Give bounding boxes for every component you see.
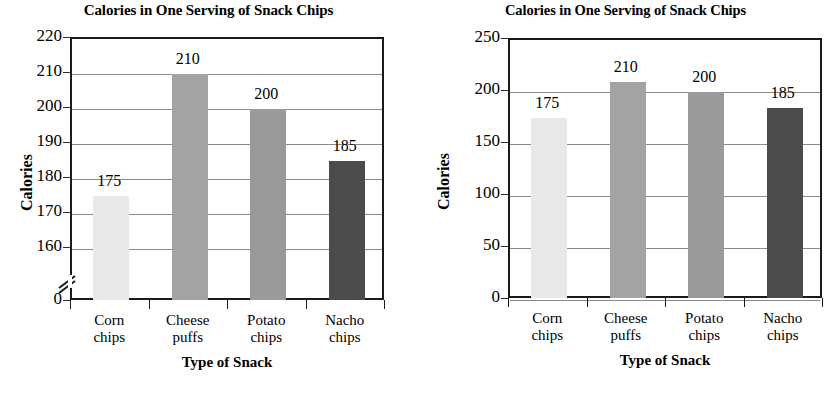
y-tick-mark bbox=[63, 247, 70, 248]
y-tick-label: 150 bbox=[448, 131, 500, 151]
x-axis-label-left: Type of Snack bbox=[50, 354, 404, 371]
bar-corn-chips bbox=[93, 196, 129, 300]
x-tick-mark bbox=[70, 300, 71, 309]
x-tick-mark bbox=[508, 298, 509, 307]
bar-value-label: 210 bbox=[158, 50, 218, 68]
y-tick-mark bbox=[63, 72, 70, 73]
y-tick-mark bbox=[501, 246, 508, 247]
bar-value-label: 210 bbox=[596, 58, 656, 76]
y-tick-mark bbox=[63, 212, 70, 213]
bar-value-label: 175 bbox=[79, 172, 139, 190]
x-axis-label-right: Type of Snack bbox=[488, 352, 834, 369]
x-category-label: Potatochips bbox=[221, 312, 311, 346]
gridline bbox=[72, 109, 382, 110]
chart-figure-right: Calories in One Serving of Snack Chips C… bbox=[417, 0, 834, 399]
y-tick-label: 160 bbox=[10, 236, 62, 256]
y-tick-mark bbox=[63, 177, 70, 178]
y-tick-label: 0 bbox=[448, 287, 500, 307]
y-tick-mark bbox=[501, 298, 508, 299]
bar-value-label: 185 bbox=[315, 137, 375, 155]
y-tick-label: 170 bbox=[10, 201, 62, 221]
bar-nacho-chips bbox=[329, 161, 365, 300]
bar-value-label: 175 bbox=[517, 94, 577, 112]
x-tick-mark bbox=[665, 298, 666, 307]
y-tick-label: 190 bbox=[10, 131, 62, 151]
x-category-label: Potatochips bbox=[659, 310, 749, 344]
y-tick-mark bbox=[501, 194, 508, 195]
y-tick-label: 200 bbox=[10, 96, 62, 116]
axis-break-mask bbox=[68, 275, 72, 288]
y-tick-mark bbox=[501, 90, 508, 91]
y-tick-label: 220 bbox=[10, 26, 62, 46]
x-category-label: Cornchips bbox=[502, 310, 592, 344]
chart-title-right: Calories in One Serving of Snack Chips bbox=[417, 2, 834, 19]
x-category-label: Cornchips bbox=[64, 312, 154, 346]
y-tick-mark bbox=[63, 37, 70, 38]
y-tick-label: 0 bbox=[10, 289, 62, 309]
bar-nacho-chips bbox=[767, 108, 803, 298]
bar-value-label: 200 bbox=[236, 85, 296, 103]
plot-area-left bbox=[70, 37, 384, 300]
y-tick-mark bbox=[63, 300, 70, 301]
x-tick-mark bbox=[227, 300, 228, 309]
y-tick-mark bbox=[63, 107, 70, 108]
bar-potato-chips bbox=[688, 92, 724, 298]
bar-corn-chips bbox=[531, 118, 567, 298]
chart-figure-left: Calories in One Serving of Snack Chips C… bbox=[0, 0, 417, 399]
y-tick-label: 100 bbox=[448, 183, 500, 203]
bar-cheese-puffs bbox=[610, 82, 646, 298]
x-category-label: Nachochips bbox=[738, 310, 828, 344]
y-tick-mark bbox=[63, 142, 70, 143]
y-tick-label: 250 bbox=[448, 27, 500, 47]
x-tick-mark bbox=[587, 298, 588, 307]
bar-value-label: 200 bbox=[674, 68, 734, 86]
y-tick-label: 180 bbox=[10, 166, 62, 186]
plot-area-right bbox=[508, 38, 822, 298]
y-tick-label: 50 bbox=[448, 235, 500, 255]
bar-potato-chips bbox=[250, 109, 286, 300]
x-tick-mark bbox=[822, 298, 823, 307]
y-tick-mark bbox=[501, 142, 508, 143]
x-tick-mark bbox=[744, 298, 745, 307]
chart-title-left: Calories in One Serving of Snack Chips bbox=[0, 2, 417, 19]
bar-value-label: 185 bbox=[753, 84, 813, 102]
x-tick-mark bbox=[306, 300, 307, 309]
x-tick-mark bbox=[149, 300, 150, 309]
x-category-label: Cheesepuffs bbox=[143, 312, 233, 346]
y-tick-label: 200 bbox=[448, 79, 500, 99]
y-tick-label: 210 bbox=[10, 61, 62, 81]
y-tick-mark bbox=[501, 38, 508, 39]
x-tick-mark bbox=[384, 300, 385, 309]
bar-cheese-puffs bbox=[172, 74, 208, 300]
x-category-label: Cheesepuffs bbox=[581, 310, 671, 344]
gridline bbox=[72, 74, 382, 75]
x-category-label: Nachochips bbox=[300, 312, 390, 346]
